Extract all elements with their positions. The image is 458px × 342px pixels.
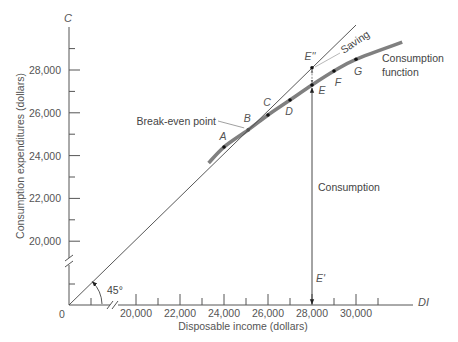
point-label: A bbox=[218, 130, 226, 142]
point-label: E'' bbox=[304, 50, 316, 62]
angle-label: 45° bbox=[107, 284, 123, 296]
data-point-g bbox=[354, 58, 358, 62]
x-tick-label: 30,000 bbox=[340, 307, 372, 319]
break-even-label: Break-even point bbox=[137, 115, 216, 127]
point-label: D bbox=[285, 105, 293, 117]
data-point-f bbox=[332, 69, 336, 73]
y-axis-title: Consumption expenditures (dollars) bbox=[14, 73, 26, 239]
axis-ticks bbox=[69, 49, 378, 305]
y-tick-label: 22,000 bbox=[29, 192, 61, 204]
point-label: B bbox=[244, 112, 251, 124]
x-tick-label: 26,000 bbox=[252, 307, 284, 319]
y-tick-label: 26,000 bbox=[29, 107, 61, 119]
saving-leader-line bbox=[315, 53, 340, 67]
break-even-leader-line bbox=[218, 121, 244, 128]
x-axis-title: Disposable income (dollars) bbox=[178, 320, 308, 332]
data-point-b bbox=[246, 128, 250, 132]
point-label: G bbox=[354, 65, 362, 77]
x-tick-label: 28,000 bbox=[296, 307, 328, 319]
y-tick-label: 24,000 bbox=[29, 150, 61, 162]
point-label: E bbox=[318, 84, 326, 96]
x-tick-label: 20,000 bbox=[120, 307, 152, 319]
origin-label: 0 bbox=[59, 308, 65, 320]
x-axis-symbol: DI bbox=[418, 296, 429, 308]
saving-label: Saving bbox=[338, 28, 371, 56]
y-axis-symbol: C bbox=[64, 12, 72, 24]
y-tick-label: 20,000 bbox=[29, 235, 61, 247]
data-point-epp bbox=[310, 66, 314, 70]
consumption-function-label-line1: Consumption bbox=[382, 52, 444, 64]
y-tick-label: 28,000 bbox=[29, 64, 61, 76]
data-point-a bbox=[222, 145, 226, 149]
consumption-label: Consumption bbox=[318, 181, 380, 193]
x-tick-label: 22,000 bbox=[164, 307, 196, 319]
point-label: C bbox=[263, 96, 271, 108]
data-point-d bbox=[288, 98, 292, 102]
angle-arc-icon bbox=[92, 282, 102, 304]
data-point-c bbox=[266, 113, 270, 117]
plot-series bbox=[69, 25, 402, 305]
data-point-e bbox=[310, 83, 314, 87]
consumption-function-label-line2: function bbox=[382, 66, 419, 78]
point-label-e-prime: E' bbox=[316, 272, 326, 284]
x-tick-label: 24,000 bbox=[208, 307, 240, 319]
point-label: F bbox=[335, 76, 342, 88]
consumption-function-chart: ABCDEFGE'' 20,00022,00024,00026,00028,00… bbox=[0, 0, 458, 342]
